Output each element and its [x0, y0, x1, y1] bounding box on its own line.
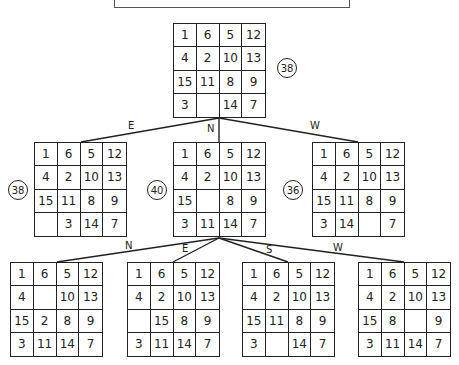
- tile: 8: [359, 190, 382, 213]
- tile: 8: [220, 190, 243, 213]
- tile: 2: [382, 286, 405, 309]
- tile: 12: [103, 143, 126, 166]
- tile: 13: [311, 286, 334, 309]
- tile: 6: [197, 143, 220, 166]
- score-circle-root: 38: [277, 58, 297, 78]
- tile: 9: [196, 310, 219, 333]
- tile: 11: [34, 333, 57, 356]
- tile: 1: [11, 263, 34, 286]
- tile: 11: [336, 190, 359, 213]
- tile: 15: [359, 310, 382, 333]
- tile: 13: [242, 47, 265, 70]
- tile: 12: [242, 143, 265, 166]
- tile: [266, 333, 289, 356]
- tile: 11: [382, 333, 405, 356]
- score-circle-w: 36: [283, 180, 303, 200]
- tile: 6: [58, 143, 81, 166]
- tile: 13: [242, 166, 265, 189]
- tile: 7: [242, 213, 265, 236]
- tile: 5: [405, 263, 428, 286]
- tile: 1: [128, 263, 151, 286]
- tile: 9: [242, 71, 265, 94]
- tile: 12: [311, 263, 334, 286]
- tile: 6: [336, 143, 359, 166]
- tile: 15: [174, 190, 197, 213]
- score-circle-n: 40: [147, 180, 167, 200]
- tile: 12: [427, 263, 450, 286]
- tile: 5: [57, 263, 80, 286]
- tile: 8: [289, 310, 312, 333]
- tile: 14: [289, 333, 312, 356]
- tile: 7: [427, 333, 450, 356]
- tile: 13: [103, 166, 126, 189]
- tile: 1: [313, 143, 336, 166]
- puzzle-grid-root: 165124210131511893147: [173, 23, 266, 118]
- tile: 2: [197, 47, 220, 70]
- tile: 7: [242, 94, 265, 117]
- tile: 1: [35, 143, 58, 166]
- tile: 3: [11, 333, 34, 356]
- tile: 15: [174, 71, 197, 94]
- score-circle-e: 38: [8, 180, 28, 200]
- tile: 2: [336, 166, 359, 189]
- puzzle-grid-w: 165124210131511893147: [312, 142, 405, 237]
- tile: 13: [427, 286, 450, 309]
- tile: 10: [289, 286, 312, 309]
- tile: 4: [174, 47, 197, 70]
- tile: 13: [196, 286, 219, 309]
- tile: 3: [243, 333, 266, 356]
- tile: 8: [57, 310, 80, 333]
- tile: 9: [103, 190, 126, 213]
- tile: 12: [79, 263, 102, 286]
- tile: 4: [174, 166, 197, 189]
- tile: 7: [311, 333, 334, 356]
- tile: 3: [58, 213, 81, 236]
- tile: 4: [243, 286, 266, 309]
- move-label-n: N: [207, 123, 214, 134]
- tile: 11: [197, 213, 220, 236]
- tile: 10: [405, 286, 428, 309]
- tile: 10: [359, 166, 382, 189]
- tile: 2: [197, 166, 220, 189]
- tile: 14: [220, 213, 243, 236]
- tile: 9: [427, 310, 450, 333]
- tile: 4: [359, 286, 382, 309]
- tile: 10: [220, 166, 243, 189]
- tile: 5: [81, 143, 104, 166]
- tile: [197, 190, 220, 213]
- tile: 10: [220, 47, 243, 70]
- puzzle-grid-e: 165124210131511893147: [34, 142, 127, 237]
- tile: 9: [311, 310, 334, 333]
- tile: 7: [79, 333, 102, 356]
- tile: 15: [11, 310, 34, 333]
- tile: 4: [313, 166, 336, 189]
- tile: 8: [81, 190, 104, 213]
- tile: 8: [174, 310, 197, 333]
- tile: 1: [359, 263, 382, 286]
- tile: 10: [81, 166, 104, 189]
- tile: 9: [242, 190, 265, 213]
- tile: 14: [81, 213, 104, 236]
- tile: [197, 94, 220, 117]
- tile: 6: [151, 263, 174, 286]
- tile: 10: [174, 286, 197, 309]
- puzzle-grid-ns: 165124210131511893147: [242, 262, 335, 357]
- tile: 14: [174, 333, 197, 356]
- tile: 1: [174, 24, 197, 47]
- tile: 9: [381, 190, 404, 213]
- tile: [34, 286, 57, 309]
- tile: 11: [266, 310, 289, 333]
- tile: 5: [174, 263, 197, 286]
- tile: 2: [151, 286, 174, 309]
- tile: 6: [382, 263, 405, 286]
- tile: 7: [381, 213, 404, 236]
- tile: [359, 213, 382, 236]
- move-label-e: E: [128, 120, 134, 131]
- tile: 10: [57, 286, 80, 309]
- tile: 6: [34, 263, 57, 286]
- tile: 6: [266, 263, 289, 286]
- tile: 11: [58, 190, 81, 213]
- tile: 14: [405, 333, 428, 356]
- tile: 8: [382, 310, 405, 333]
- tile: 5: [289, 263, 312, 286]
